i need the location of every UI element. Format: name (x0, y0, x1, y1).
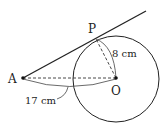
tangent-circle-diagram: A O P 8 cm 17 cm (0, 0, 167, 129)
label-ao-length: 17 cm (25, 95, 57, 106)
label-radius: 8 cm (112, 48, 137, 59)
point-o-dot (114, 76, 118, 80)
point-a-dot (21, 76, 25, 80)
ao-label-leader (57, 87, 68, 99)
label-a: A (7, 72, 17, 86)
tangent-line (23, 11, 146, 78)
ao-length-arc (23, 79, 116, 87)
label-p: P (88, 22, 96, 36)
label-o: O (111, 84, 121, 98)
